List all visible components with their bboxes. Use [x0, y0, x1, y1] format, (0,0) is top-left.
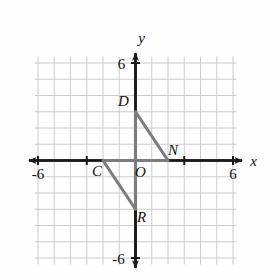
x-max-tick-label: 6 — [229, 166, 237, 182]
point-label-D: D — [117, 93, 129, 109]
axis-labels: xy-666-6 — [32, 30, 258, 266]
point-label-C: C — [92, 163, 103, 179]
coordinate-plane-svg: xy-666-6 DNCRO — [0, 0, 279, 276]
coordinate-plane-figure: xy-666-6 DNCRO — [0, 0, 279, 276]
point-label-O: O — [135, 164, 146, 180]
x-axis-label: x — [249, 153, 257, 169]
shape-paths — [103, 112, 168, 210]
point-label-R: R — [136, 209, 146, 225]
point-label-N: N — [167, 142, 179, 158]
y-max-tick-label: 6 — [118, 56, 126, 72]
x-min-tick-label: -6 — [32, 166, 45, 182]
y-axis-label: y — [136, 30, 145, 46]
y-min-tick-label: -6 — [112, 251, 125, 267]
